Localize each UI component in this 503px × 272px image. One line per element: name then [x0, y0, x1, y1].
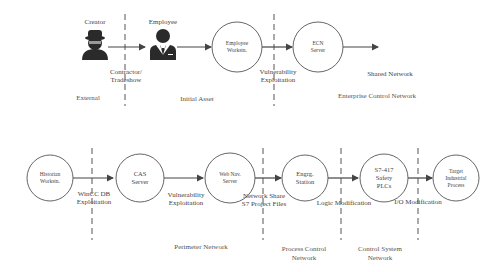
node-label-target-process: Target Industrial Process	[445, 168, 466, 189]
diagram-canvas	[0, 0, 503, 272]
node-label-s7-safety-plcs: S7-417 Safety PLCs	[375, 166, 394, 190]
edge-label-network-share: Network Share S7 Project Files	[242, 192, 286, 208]
edge-label-line: Exploitation	[168, 199, 205, 207]
edge-label-logic-modification: Logic Modification	[317, 199, 372, 207]
edge-label-contractor-tradeshow: Contractor/ Tradeshow	[110, 68, 142, 84]
edge-label-line: WinCC DB	[77, 190, 112, 198]
actor-label-creator: Creator	[85, 18, 106, 26]
node-label-line: S7-417	[375, 166, 394, 174]
zone-label-perimeter-network: Perimeter Network	[174, 243, 227, 252]
node-label-line: PLCs	[375, 182, 394, 190]
edge-label-line: Vulnerability	[260, 68, 297, 76]
zone-label-line: Network	[358, 254, 402, 263]
node-label-line: Web Nav.	[219, 171, 241, 178]
node-label-line: Station	[296, 178, 314, 186]
node-label-cas-server: CAS Server	[132, 170, 149, 186]
zone-label-control-system-network: Control System Network	[358, 245, 402, 263]
edge-label-vulnerability-exploitation-bottom: Vulnerability Exploitation	[168, 191, 205, 207]
edge-label-line: S7 Project Files	[242, 200, 286, 208]
edge-label-line: Exploitation	[260, 76, 297, 84]
edge-label-io-modification: I/O Modification	[394, 198, 442, 206]
hacker-icon	[82, 30, 108, 60]
edge-label-wincc-db-exploitation: WinCC DB Exploitation	[77, 190, 112, 206]
employee-icon	[150, 29, 176, 60]
node-label-historian-workstation: Historian Workstn.	[40, 171, 60, 185]
node-label-line: Workstn.	[226, 47, 248, 54]
node-label-web-nav-server: Web Nav. Server	[219, 171, 241, 185]
node-label-line: Target	[445, 168, 466, 175]
zone-label-line: Network	[282, 254, 327, 263]
edge-label-line: Vulnerability	[168, 191, 205, 199]
node-label-line: ECN	[311, 40, 325, 47]
node-label-ecn-server: ECN Server	[311, 40, 325, 54]
node-label-line: Employee	[226, 40, 248, 47]
zone-label-initial-asset: Initial Asset	[180, 95, 214, 104]
zone-label-line: Process Control	[282, 245, 327, 254]
node-label-line: Safety	[375, 174, 394, 182]
node-label-line: Process	[445, 182, 466, 189]
node-label-line: Historian	[40, 171, 60, 178]
node-label-employee-workstation: Employee Workstn.	[226, 40, 248, 54]
actor-label-employee: Employee	[149, 18, 177, 26]
edge-label-line: Network Share	[242, 192, 286, 200]
node-label-engrg-station: Engrg. Station	[296, 170, 314, 186]
edge-label-vulnerability-exploitation-top: Vulnerability Exploitation	[260, 68, 297, 84]
node-label-line: Server	[219, 178, 241, 185]
node-label-line: Engrg.	[296, 170, 314, 178]
node-label-line: Workstn.	[40, 178, 60, 185]
edge-label-line: Exploitation	[77, 198, 112, 206]
edge-label-line: Contractor/	[110, 68, 142, 76]
edge-label-shared-network: Shared Network	[367, 70, 413, 78]
node-label-line: Server	[311, 47, 325, 54]
zone-label-line: Control System	[358, 245, 402, 254]
zone-label-process-control-network: Process Control Network	[282, 245, 327, 263]
node-label-line: CAS	[132, 170, 149, 178]
zone-label-enterprise-control-network: Enterprise Control Network	[338, 92, 416, 101]
edge-label-line: Tradeshow	[110, 76, 142, 84]
node-label-line: Industrial	[445, 175, 466, 182]
zone-label-external: External	[76, 94, 100, 103]
node-label-line: Server	[132, 178, 149, 186]
